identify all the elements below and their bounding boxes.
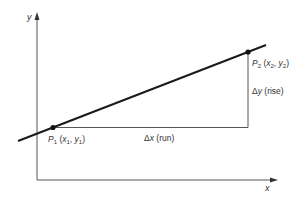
- slope-diagram: y x P2 (x2, y2) Δy (rise) P1 (x1, y1) Δx…: [0, 0, 304, 200]
- rise-label: Δy (rise): [252, 86, 284, 96]
- point-p1: [50, 125, 55, 130]
- point-p2: [245, 49, 250, 54]
- p1-label: P1 (x1, y1): [48, 134, 85, 145]
- run-label: Δx (run): [144, 133, 174, 143]
- x-axis-arrow-icon: [270, 178, 278, 183]
- x-axis-label: x: [264, 183, 270, 193]
- y-axis-arrow-icon: [35, 12, 40, 20]
- p2-label: P2 (x2, y2): [252, 58, 289, 69]
- y-axis-label: y: [26, 12, 32, 22]
